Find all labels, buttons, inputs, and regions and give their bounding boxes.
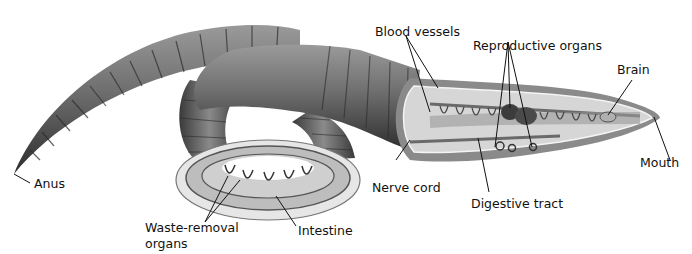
label-waste-removal-line1: Waste-removal: [145, 220, 239, 235]
label-blood-vessels: Blood vessels: [375, 24, 460, 39]
label-nerve-cord: Nerve cord: [372, 180, 441, 195]
label-anus: Anus: [34, 176, 65, 191]
label-mouth: Mouth: [640, 155, 679, 170]
intestine-cross-section: [176, 140, 360, 220]
label-waste-removal-line2: organs: [145, 236, 188, 251]
label-brain: Brain: [617, 62, 650, 77]
worm-head-cutaway: [396, 78, 660, 162]
worm-body-front: [194, 45, 420, 150]
label-digestive-tract: Digestive tract: [471, 196, 563, 211]
label-intestine: Intestine: [298, 223, 353, 238]
label-reproductive-organs: Reproductive organs: [473, 38, 602, 53]
